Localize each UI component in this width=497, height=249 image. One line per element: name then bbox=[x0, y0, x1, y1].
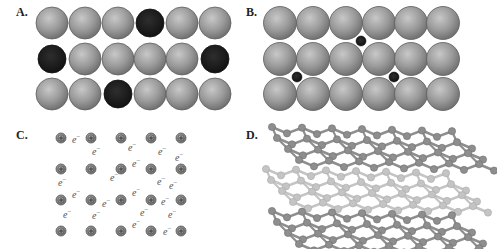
cation bbox=[176, 133, 186, 143]
host-atom bbox=[36, 78, 68, 110]
carbon-atom bbox=[417, 180, 424, 187]
host-atom bbox=[297, 7, 330, 40]
carbon-atom bbox=[409, 201, 416, 208]
cation bbox=[86, 226, 96, 236]
host-atom bbox=[69, 78, 101, 110]
host-atom bbox=[69, 7, 101, 39]
electron: e− bbox=[110, 171, 118, 183]
electron: e− bbox=[140, 206, 148, 218]
carbon-atom bbox=[442, 170, 449, 177]
interstitial-atom bbox=[292, 72, 302, 82]
carbon-atom bbox=[357, 179, 364, 186]
carbon-atom bbox=[448, 128, 455, 135]
electron: e− bbox=[63, 208, 71, 220]
graphite-middle-layer bbox=[262, 165, 491, 216]
carbon-atom bbox=[433, 133, 440, 140]
carbon-atom bbox=[297, 177, 304, 184]
carbon-atom bbox=[490, 167, 497, 174]
carbon-atom bbox=[277, 172, 284, 179]
carbon-atom bbox=[398, 190, 405, 197]
carbon-atom bbox=[307, 172, 314, 179]
cation bbox=[56, 226, 66, 236]
panel-c-electron-sea: e−e−e−e−e−e−e−e−e−e−e−e−e−e−e−e−e−e−e−e− bbox=[56, 133, 186, 237]
carbon-atom bbox=[328, 125, 335, 132]
electron: e− bbox=[132, 218, 140, 230]
carbon-atom bbox=[447, 181, 454, 188]
carbon-atom bbox=[458, 192, 465, 199]
carbon-atom bbox=[298, 208, 305, 215]
carbon-atom bbox=[373, 132, 380, 139]
carbon-atom bbox=[262, 165, 269, 172]
host-atom bbox=[330, 43, 363, 76]
carbon-atom bbox=[397, 175, 404, 182]
host-atom bbox=[395, 43, 428, 76]
cation bbox=[176, 195, 186, 205]
carbon-atom bbox=[340, 163, 347, 170]
carbon-atom bbox=[295, 156, 302, 163]
electron: e− bbox=[128, 141, 136, 153]
carbon-atom bbox=[434, 233, 441, 240]
electron: e− bbox=[169, 179, 177, 191]
cation bbox=[146, 164, 156, 174]
electron: e− bbox=[92, 209, 100, 221]
graphite-top-layer bbox=[268, 123, 497, 174]
carbon-atom bbox=[403, 133, 410, 140]
host-atom bbox=[134, 78, 166, 110]
carbon-atom bbox=[385, 243, 392, 249]
carbon-atom bbox=[308, 188, 315, 195]
carbon-atom bbox=[423, 138, 430, 145]
interstitial-atom bbox=[389, 72, 399, 82]
carbon-atom bbox=[464, 150, 471, 157]
substitute-atom bbox=[201, 45, 229, 73]
carbon-atom bbox=[352, 168, 359, 175]
carbon-atom bbox=[344, 147, 351, 154]
carbon-atom bbox=[344, 231, 351, 238]
cation bbox=[146, 226, 156, 236]
carbon-atom bbox=[322, 167, 329, 174]
carbon-atom bbox=[464, 234, 471, 241]
carbon-atom bbox=[358, 210, 365, 217]
carbon-atom bbox=[355, 242, 362, 249]
figure-canvas: e−e−e−e−e−e−e−e−e−e−e−e−e−e−e−e−e−e−e−e− bbox=[0, 0, 497, 249]
graphite-bottom-layer bbox=[268, 207, 497, 249]
host-atom bbox=[36, 7, 68, 39]
electron: e− bbox=[168, 208, 176, 220]
carbon-atom bbox=[333, 220, 340, 227]
carbon-atom bbox=[404, 148, 411, 155]
carbon-atom bbox=[388, 126, 395, 133]
host-atom bbox=[199, 7, 231, 39]
cation bbox=[56, 164, 66, 174]
carbon-atom bbox=[475, 161, 482, 168]
electron: e− bbox=[161, 195, 169, 207]
cation bbox=[86, 133, 96, 143]
panel-label-d: D. bbox=[246, 128, 258, 143]
cation bbox=[56, 133, 66, 143]
cation bbox=[116, 226, 126, 236]
carbon-atom bbox=[427, 175, 434, 182]
panel-label-b: B. bbox=[246, 5, 257, 20]
carbon-atom bbox=[325, 157, 332, 164]
host-atom bbox=[134, 43, 166, 75]
carbon-atom bbox=[382, 168, 389, 175]
carbon-atom bbox=[415, 243, 422, 249]
cation bbox=[116, 133, 126, 143]
alloy-bonding-figure: e−e−e−e−e−e−e−e−e−e−e−e−e−e−e−e−e−e−e−e−… bbox=[0, 0, 497, 249]
carbon-atom bbox=[415, 159, 422, 166]
host-atom bbox=[264, 78, 297, 111]
carbon-atom bbox=[363, 221, 370, 228]
carbon-atom bbox=[333, 136, 340, 143]
carbon-atom bbox=[328, 209, 335, 216]
host-atom bbox=[330, 7, 363, 40]
carbon-atom bbox=[367, 174, 374, 181]
panel-d-graphite-layers bbox=[262, 123, 497, 249]
carbon-atom bbox=[298, 124, 305, 131]
host-atom bbox=[264, 43, 297, 76]
host-atom bbox=[427, 78, 460, 111]
carbon-atom bbox=[404, 232, 411, 239]
host-atom bbox=[363, 43, 396, 76]
host-atom bbox=[395, 78, 428, 111]
carbon-atom bbox=[393, 221, 400, 228]
carbon-atom bbox=[423, 222, 430, 229]
panel-label-c: C. bbox=[16, 128, 28, 143]
carbon-atom bbox=[273, 134, 280, 141]
